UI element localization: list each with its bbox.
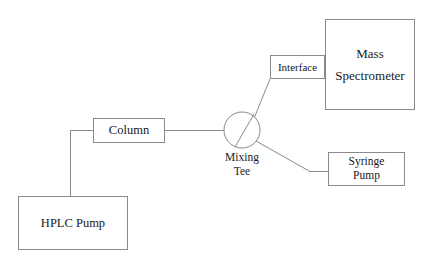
flow-diagram: Mass Spectrometer Interface Syringe Pump… xyxy=(0,0,428,261)
node-interface-label: Interface xyxy=(278,61,317,74)
node-mass-spectrometer-line2: Spectrometer xyxy=(335,68,404,83)
node-syringe-pump[interactable]: Syringe Pump xyxy=(328,152,405,186)
label-mixing-tee: Mixing Tee xyxy=(208,150,276,179)
node-mass-spectrometer[interactable]: Mass Spectrometer xyxy=(325,19,415,110)
node-column[interactable]: Column xyxy=(93,118,165,143)
node-syringe-pump-line1: Syringe xyxy=(349,155,385,169)
label-mixing-tee-line2: Tee xyxy=(208,164,276,178)
node-mass-spectrometer-line1: Mass xyxy=(356,46,383,61)
node-hplc-pump-label: HPLC Pump xyxy=(41,216,105,231)
connector-mixing-tee-to-interface xyxy=(255,79,270,117)
node-hplc-pump[interactable]: HPLC Pump xyxy=(18,196,128,250)
mixing-tee-circle xyxy=(224,112,260,148)
connector-hplc-pump-to-column xyxy=(71,131,94,197)
node-syringe-pump-line2: Pump xyxy=(353,169,380,183)
mixing-tee-internal-diagonal xyxy=(235,114,254,147)
node-column-label: Column xyxy=(109,123,149,138)
node-interface[interactable]: Interface xyxy=(270,55,325,79)
label-mixing-tee-line1: Mixing xyxy=(208,150,276,164)
